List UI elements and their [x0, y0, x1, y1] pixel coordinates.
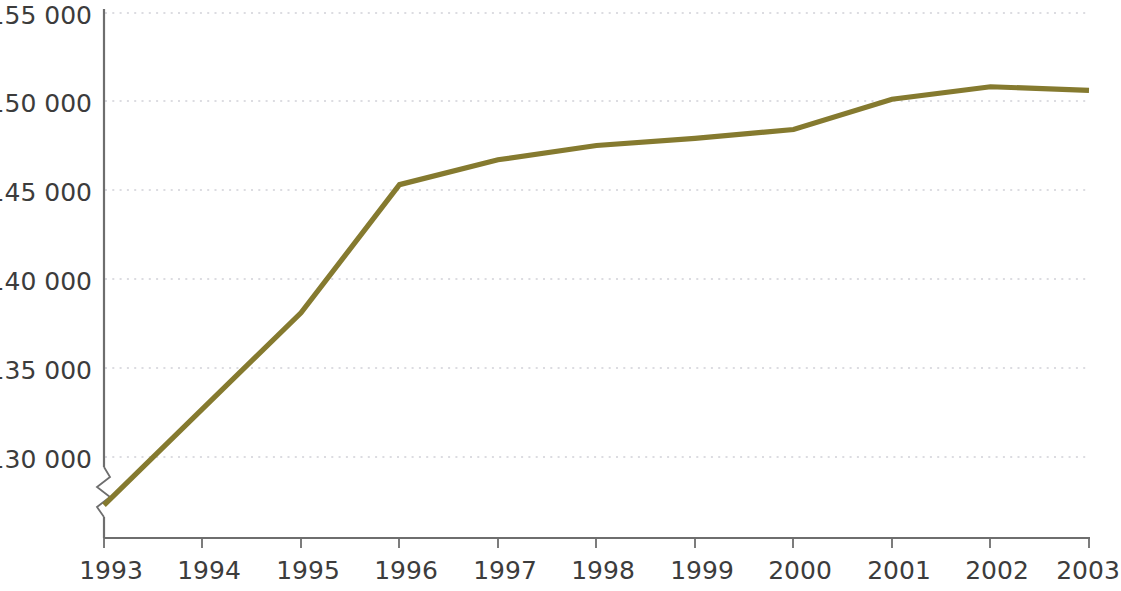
y-tick-label-150000: 150 000	[0, 89, 92, 118]
x-tick-label-1998: 1998	[571, 556, 635, 585]
y-axis	[97, 9, 110, 538]
x-tick-label-2001: 2001	[867, 556, 931, 585]
x-tick-label-1996: 1996	[374, 556, 438, 585]
x-tick-label-2003: 2003	[1056, 556, 1120, 585]
gridlines	[105, 13, 1088, 457]
y-tick-label-140000: 140 000	[0, 267, 92, 296]
y-tick-label-135000: 135 000	[0, 356, 92, 385]
y-tick-label-155000: 155 000	[0, 1, 92, 30]
x-tick-label-1997: 1997	[473, 556, 537, 585]
data-series-line	[104, 87, 1089, 505]
x-tick-label-1999: 1999	[670, 556, 734, 585]
y-axis-break-icon	[97, 467, 110, 517]
x-tick-label-2000: 2000	[768, 556, 832, 585]
y-tick-label-130000: 130 000	[0, 445, 92, 474]
x-tick-label-1995: 1995	[276, 556, 340, 585]
x-tick-label-1994: 1994	[177, 556, 241, 585]
x-axis-labels: 1993 1994 1995 1996 1997 1998 1999 2000 …	[79, 556, 1120, 585]
chart-canvas: 155 000 150 000 145 000 140 000 135 000 …	[0, 0, 1121, 591]
x-tick-label-2002: 2002	[965, 556, 1029, 585]
x-tick-label-1993: 1993	[79, 556, 143, 585]
line-chart: 155 000 150 000 145 000 140 000 135 000 …	[0, 0, 1121, 591]
y-tick-label-145000: 145 000	[0, 178, 92, 207]
x-axis	[104, 538, 1090, 548]
y-axis-labels: 155 000 150 000 145 000 140 000 135 000 …	[0, 1, 92, 474]
